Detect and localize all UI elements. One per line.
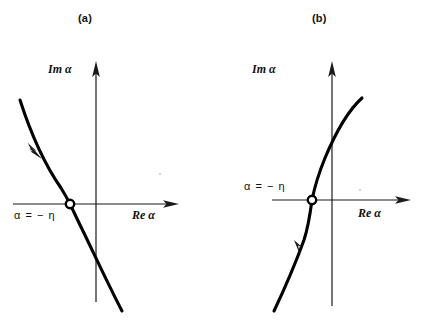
pole-point-label-b: α = − η (244, 180, 286, 192)
real-axis-label-a: Re α (132, 208, 155, 223)
real-axis-label-b: Re α (358, 206, 381, 221)
pole-marker-b (308, 196, 316, 204)
pole-marker-a (66, 200, 74, 208)
panel-b-plot (212, 0, 424, 328)
panel-a: (a) Im α Re α α = − η (0, 0, 212, 328)
panel-a-caption: (a) (78, 12, 92, 24)
imaginary-axis-label-a: Im α (48, 62, 72, 77)
panel-a-plot (0, 0, 212, 328)
print-speck-a (159, 173, 161, 175)
imaginary-axis-label-b: Im α (252, 62, 276, 77)
figure-root: (a) Im α Re α α = − η (b) (0, 0, 425, 328)
panel-b-caption: (b) (312, 12, 327, 24)
pole-point-label-a: α = − η (14, 209, 56, 221)
contour-curve-b (274, 98, 362, 311)
print-speck-b (359, 189, 361, 191)
panel-b: (b) Im α Re α α = − η (212, 0, 424, 328)
